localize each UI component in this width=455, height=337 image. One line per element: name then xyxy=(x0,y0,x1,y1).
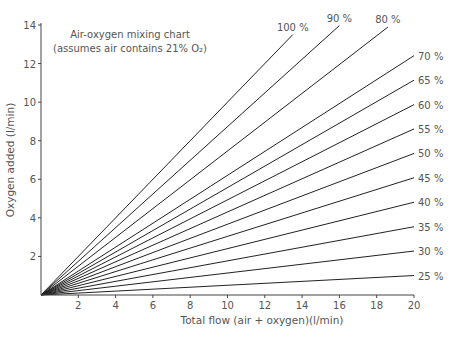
air-oxygen-mixing-chart: Air-oxygen mixing chart (assumes air con… xyxy=(0,0,455,337)
y-tick-label: 10 xyxy=(23,97,36,108)
series-label-25: 25 % xyxy=(418,271,443,282)
chart-title-text: Air-oxygen mixing chart xyxy=(70,29,190,40)
x-tick-label: 18 xyxy=(370,300,383,311)
x-axis-ticks: 2468101214161820 xyxy=(75,295,420,311)
series-label-100: 100 % xyxy=(277,22,309,33)
series-label-35: 35 % xyxy=(418,222,443,233)
series-line-40 xyxy=(41,202,414,295)
chart-title: Air-oxygen mixing chart (assumes air con… xyxy=(53,29,207,54)
series-label-65: 65 % xyxy=(418,75,443,86)
x-axis-title: Total flow (air + oxygen)(l/min) xyxy=(180,314,344,326)
y-tick-label: 6 xyxy=(30,174,36,185)
x-tick-label: 14 xyxy=(296,300,309,311)
series-line-80 xyxy=(41,27,388,295)
y-tick-label: 4 xyxy=(30,213,36,224)
series-label-70: 70 % xyxy=(418,51,443,62)
x-tick-label: 8 xyxy=(187,300,193,311)
y-axis-title: Oxygen added (l/min) xyxy=(4,103,16,218)
series-line-60 xyxy=(41,105,414,295)
series-label-50: 50 % xyxy=(418,148,443,159)
series-label-55: 55 % xyxy=(418,124,443,135)
y-tick-label: 12 xyxy=(23,59,36,70)
x-tick-label: 2 xyxy=(75,300,81,311)
series-label-45: 45 % xyxy=(418,173,443,184)
y-axis-ticks: 2468101214 xyxy=(23,20,41,262)
chart-subtitle-text: (assumes air contains 21% O₂) xyxy=(53,43,207,54)
series-lines xyxy=(41,26,414,295)
series-line-55 xyxy=(41,129,414,295)
series-line-70 xyxy=(41,56,414,295)
series-label-30: 30 % xyxy=(418,246,443,257)
y-tick-label: 2 xyxy=(30,251,36,262)
chart-canvas: Air-oxygen mixing chart (assumes air con… xyxy=(0,0,455,337)
series-line-45 xyxy=(41,178,414,295)
y-tick-label: 8 xyxy=(30,136,36,147)
series-label-90: 90 % xyxy=(327,13,352,24)
series-line-90 xyxy=(41,26,339,295)
x-tick-label: 16 xyxy=(333,300,346,311)
x-tick-label: 4 xyxy=(112,300,118,311)
y-tick-label: 14 xyxy=(23,20,36,31)
series-line-50 xyxy=(41,153,414,295)
series-labels: 100 %90 %80 %70 %65 %60 %55 %50 %45 %40 … xyxy=(277,13,444,282)
series-label-60: 60 % xyxy=(418,100,443,111)
x-tick-label: 10 xyxy=(221,300,234,311)
series-label-80: 80 % xyxy=(375,14,400,25)
x-tick-label: 6 xyxy=(150,300,156,311)
series-line-65 xyxy=(41,80,414,295)
series-label-40: 40 % xyxy=(418,197,443,208)
x-tick-label: 12 xyxy=(258,300,271,311)
x-tick-label: 20 xyxy=(408,300,421,311)
series-line-30 xyxy=(41,251,414,295)
